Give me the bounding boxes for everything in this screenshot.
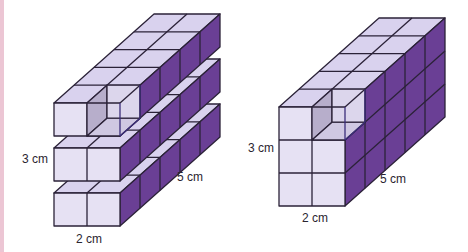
right-width-label: 2 cm	[302, 211, 328, 225]
right-depth-label: 5 cm	[380, 172, 406, 186]
right-height-label: 3 cm	[248, 141, 274, 155]
unit-cube-diagram	[0, 0, 468, 252]
left-width-label: 2 cm	[76, 232, 102, 246]
left-height-label: 3 cm	[22, 152, 48, 166]
left-depth-label: 5 cm	[177, 170, 203, 184]
